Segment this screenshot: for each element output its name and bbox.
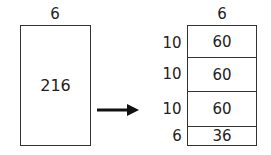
- row-cell: 60: [188, 58, 256, 92]
- row-area-label: 60: [212, 33, 231, 51]
- row-height-label: 10: [160, 66, 184, 82]
- row-area-label: 60: [212, 66, 231, 84]
- left-area-label: 216: [21, 78, 90, 94]
- row-height-label: 10: [160, 101, 184, 117]
- row-height-label: 10: [160, 35, 184, 51]
- right-width-label: 6: [187, 6, 257, 22]
- row-height-label: 6: [170, 128, 184, 144]
- row-cell: 36: [188, 127, 256, 145]
- row-cell: 60: [188, 92, 256, 127]
- row-area-label: 36: [212, 127, 231, 145]
- arrow-right-icon: [97, 103, 139, 117]
- right-rectangle: 60 60 60 36: [187, 25, 257, 146]
- row-area-label: 60: [212, 100, 231, 118]
- left-width-label: 6: [20, 6, 90, 22]
- row-cell: 60: [188, 26, 256, 58]
- left-rectangle: 216: [20, 25, 91, 146]
